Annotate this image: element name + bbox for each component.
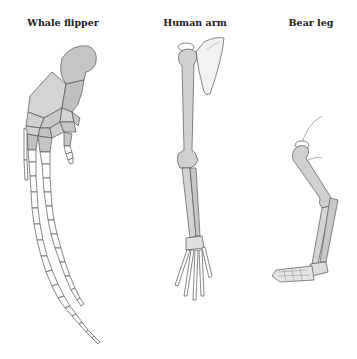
bear-leg-illustration xyxy=(272,116,338,282)
human-arm-illustration xyxy=(175,38,224,301)
whale-flipper-illustration xyxy=(24,46,100,344)
